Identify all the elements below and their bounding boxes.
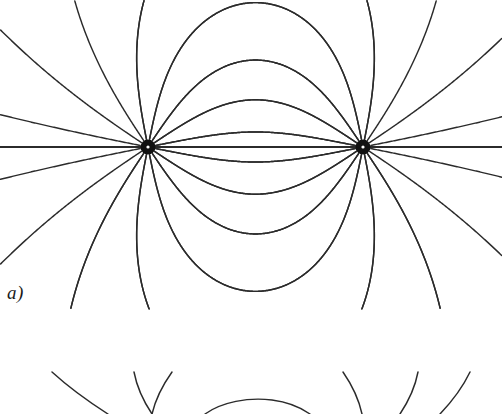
- figure-page: a): [0, 0, 502, 414]
- panel-a-field-lines: [1, 1, 502, 309]
- panel-label-a: a): [7, 283, 24, 302]
- panel-b-field-lines: [52, 372, 470, 414]
- dipole-field-diagram: [0, 0, 502, 414]
